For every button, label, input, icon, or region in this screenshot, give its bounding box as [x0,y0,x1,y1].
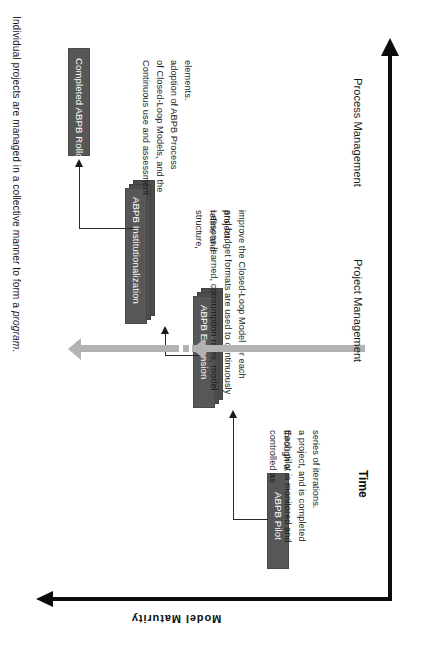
axis-model-maturity-arrowhead [36,591,53,607]
connector-segment-horizontal [79,228,134,229]
project-management-shaft [205,345,365,352]
axis-model-maturity-line [52,597,392,601]
connector-segment-vertical [79,167,80,229]
diagram-heading-text-a: Individual projects are managed in a col… [11,16,22,311]
axis-model-maturity-label: Model Maturity [131,613,221,625]
box-institutionalization-body[interactable]: ABPB Institutionalization [125,188,147,324]
connector-arrowhead [161,326,169,334]
box-rollout-label: Completed ABPB Rollout [74,58,85,167]
connector-arrowhead [75,159,83,167]
annotation-line: elements. [180,60,195,101]
box-rollout-body[interactable]: Completed ABPB Rollout [68,48,90,156]
connector-arrowhead [229,410,237,418]
process-management-arrowhead [68,338,81,360]
box-institutionalization-label: ABPB Institutionalization [131,197,142,304]
diagram-heading-text-b: . [11,349,22,352]
annotation-line: improve the Closed-Loop Model for each p… [219,210,249,394]
axis-time-arrowhead [381,38,399,56]
annotation-line: adoption of ABPB Process [166,60,181,170]
process-management-dash [201,345,207,352]
process-management-label: Process Management [352,78,364,187]
process-management-shaft [81,345,179,352]
process-management-dash [210,345,216,352]
annotation-line: a project, and is completed through a [279,430,309,554]
annotation-line: Continuous use and assessment [138,60,153,195]
process-management-dash [192,345,198,352]
axis-time-line [388,56,392,601]
process-management-dash [183,345,189,352]
diagram-heading: Individual projects are managed in a col… [10,16,22,352]
diagram-canvas: Individual projects are managed in a col… [0,0,433,659]
axis-time-label: Time [356,470,370,498]
project-management-label: Project Management [352,259,364,362]
annotation-line: of Closed-Loop Models, and the [152,60,167,192]
diagram-heading-emphasis: program [11,311,22,349]
annotation-line: series of iterations. [308,430,323,508]
connector-segment-vertical [233,418,234,520]
connector-segment-horizontal [233,519,268,520]
